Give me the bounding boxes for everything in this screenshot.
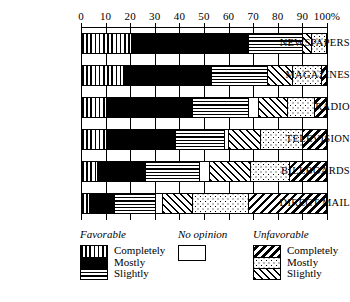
legend-group: No opinion (178, 228, 227, 261)
legend-group: UnfavorableCompletelyMostlySlightly (253, 228, 338, 280)
bar-segment (97, 162, 146, 181)
bar-segment (162, 194, 191, 213)
bar-segment (131, 34, 248, 53)
bar-segment (89, 194, 113, 213)
x-axis-tick-label: 60 (223, 10, 234, 22)
bar-segment (192, 98, 248, 117)
legend-group-title: Favorable (80, 228, 165, 241)
legend-item-label: Completely (114, 245, 165, 257)
bar-segment (82, 194, 89, 213)
bar-segment (209, 162, 250, 181)
bar-segment (155, 194, 162, 213)
legend-group-title: No opinion (178, 228, 227, 241)
x-axis-tick-label: 100% (314, 10, 340, 22)
chart-legend: FavorableCompletelyMostlySlightlyNo opin… (0, 228, 350, 302)
legend-swatch (254, 257, 280, 268)
stacked-bar-chart: 0102030405060708090100% FavorableComplet… (0, 0, 350, 302)
x-axis-tick-label: 70 (247, 10, 258, 22)
category-label: DIRECT MAIL (274, 197, 350, 209)
bar-segment (82, 162, 97, 181)
legend-swatch (254, 246, 280, 257)
legend-item-label: Slightly (287, 268, 338, 280)
x-axis: 0102030405060708090100% (81, 10, 327, 28)
legend-item-label: Completely (287, 245, 338, 257)
category-label: RADIO (274, 101, 350, 113)
legend-group: FavorableCompletelyMostlySlightly (80, 228, 165, 280)
bar-segment (228, 130, 260, 149)
x-axis-tick-label: 20 (124, 10, 135, 22)
category-label: TELEVISION (274, 133, 350, 145)
bar-segment (199, 162, 209, 181)
plot-area (81, 28, 327, 220)
x-axis-tick-label: 40 (174, 10, 185, 22)
legend-swatch (81, 257, 107, 268)
x-axis-tick-label: 30 (149, 10, 160, 22)
bar-segment (82, 66, 123, 85)
bar-segment (123, 66, 211, 85)
x-axis-tick-label: 90 (297, 10, 308, 22)
legend-swatch (254, 268, 280, 279)
legend-swatch-stack (80, 245, 108, 280)
bar-segment (211, 66, 267, 85)
bar-segment (248, 98, 258, 117)
x-axis-tick-label: 80 (272, 10, 283, 22)
bar-segment (192, 194, 248, 213)
legend-swatch (81, 246, 107, 257)
category-label: NEWSPAPERS (274, 37, 350, 49)
category-label: BILLBOARDS (274, 165, 350, 177)
category-label: MAGAZINES (274, 69, 350, 81)
legend-group-title: Unfavorable (253, 228, 338, 241)
grid-line (327, 28, 328, 220)
legend-labels: CompletelyMostlySlightly (114, 245, 165, 280)
legend-item-label: Slightly (114, 268, 165, 280)
bar-segment (145, 162, 199, 181)
bar-segment (114, 194, 155, 213)
legend-swatch (178, 245, 206, 261)
legend-swatch (81, 268, 107, 279)
bar-segment (82, 34, 131, 53)
legend-swatch-stack (253, 245, 281, 280)
legend-labels: CompletelyMostlySlightly (287, 245, 338, 280)
bar-segment (82, 130, 106, 149)
x-axis-tick-label: 50 (198, 10, 209, 22)
bar-segment (82, 98, 106, 117)
bar-segment (106, 130, 174, 149)
bar-segment (175, 130, 224, 149)
x-axis-tick-label: 0 (78, 10, 84, 22)
bar-segment (106, 98, 191, 117)
x-axis-tick-label: 10 (100, 10, 111, 22)
